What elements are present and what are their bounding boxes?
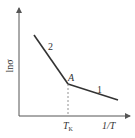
line-1-label: 1 xyxy=(97,84,102,95)
x-axis-label: 1/T xyxy=(102,120,117,131)
y-axis-label: lnσ xyxy=(4,59,15,73)
diagram-canvas: lnσ 2 A 1 TK 1/T xyxy=(0,0,135,138)
line-2-label: 2 xyxy=(48,41,53,52)
tk-tick-label: TK xyxy=(63,120,74,132)
point-a-label: A xyxy=(67,72,75,83)
line-1 xyxy=(68,84,118,100)
